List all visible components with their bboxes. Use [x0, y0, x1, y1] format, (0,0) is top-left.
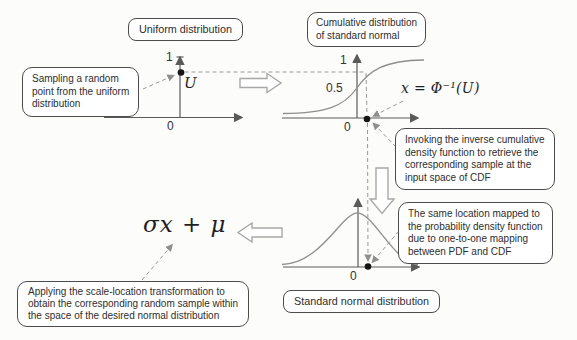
- connector-samelocation-to-pdf-point: [373, 231, 400, 262]
- connector-invoking-to-cdf-point: [374, 124, 397, 148]
- sample-points: [178, 69, 372, 270]
- connector-cdf-to-pdf: [368, 123, 369, 261]
- connector-applying-to-formula: [142, 245, 172, 280]
- cdf-sample-point: [364, 116, 371, 123]
- connector-cdf-drop-to-axis: [366, 73, 367, 115]
- text-line: due to one-to-one mapping: [408, 233, 543, 246]
- text-line: of standard normal: [316, 30, 417, 43]
- connector-formula-to-cdf-point: [374, 101, 404, 116]
- text-line: Applying the scale-location transformati…: [28, 286, 238, 298]
- same-location-annotation-box: The same location mapped to the probabil…: [398, 202, 553, 264]
- uniform-tick-label-one: 1: [166, 50, 173, 64]
- scale-location-formula: σx + μ: [143, 211, 227, 237]
- uniform-distribution-title-box: Uniform distribution: [128, 18, 243, 41]
- pdf-sample-point: [365, 263, 372, 270]
- cdf-title-box: Cumulative distribution of standard norm…: [307, 12, 426, 47]
- standard-normal-title-box: Standard normal distribution: [283, 290, 440, 313]
- pdf-tick-label-zero: 0: [350, 269, 357, 283]
- inverse-cdf-formula: x = Φ⁻¹(U): [401, 80, 480, 96]
- text-line: point from the uniform: [32, 86, 129, 99]
- u-sample-label: U: [184, 74, 197, 92]
- text-line: distribution: [32, 98, 129, 111]
- text-line: the space of the desired normal distribu…: [28, 310, 238, 322]
- text-line: input space of CDF: [405, 172, 545, 185]
- text-line: corresponding sample at the: [405, 159, 545, 172]
- connector-sampling-to-point: [143, 76, 174, 90]
- text-line: the probability density function: [408, 221, 543, 234]
- invoking-annotation-box: Invoking the inverse cumulative density …: [395, 128, 555, 190]
- text-line: Sampling a random: [32, 73, 129, 86]
- dashed-connectors: [142, 72, 403, 280]
- left-block-arrow-icon: [238, 223, 282, 242]
- text-line: obtain the corresponding random sample w…: [28, 298, 238, 310]
- text-line: density function to retrieve the: [405, 147, 545, 160]
- uniform-tick-label-zero: 0: [167, 119, 174, 133]
- cdf-tick-label-zero: 0: [344, 120, 351, 134]
- cdf-tick-label-one: 1: [340, 53, 347, 67]
- sampling-annotation-box: Sampling a random point from the uniform…: [22, 67, 139, 117]
- text-line: The same location mapped to: [408, 208, 543, 221]
- text-line: between PDF and CDF: [408, 246, 543, 259]
- down-block-arrow-icon: [370, 168, 394, 214]
- cdf-tick-label-half: 0.5: [326, 81, 343, 95]
- right-block-arrow-icon: [240, 74, 281, 93]
- applying-annotation-box: Applying the scale-location transformati…: [17, 281, 249, 327]
- text-line: Cumulative distribution: [316, 17, 417, 30]
- inverse-transform-sampling-diagram: Uniform distribution Cumulative distribu…: [0, 0, 577, 340]
- flow-arrows: [238, 74, 394, 243]
- text-line: Invoking the inverse cumulative: [405, 134, 545, 147]
